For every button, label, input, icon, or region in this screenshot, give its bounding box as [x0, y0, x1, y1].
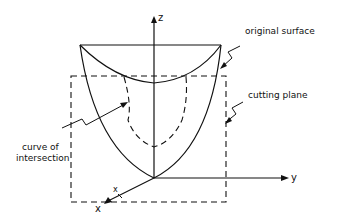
intersection-leader-arrow: [120, 102, 128, 108]
curve-of-intersection-label-line2: intersection: [16, 153, 69, 163]
z-axis-label: z: [158, 13, 163, 23]
surface-back-rim: [80, 45, 221, 83]
intersection-curve: [124, 77, 187, 147]
cutting-plane-label: cutting plane: [248, 90, 307, 100]
y-axis-arrowhead: [281, 175, 289, 181]
x-axis-label: x: [95, 204, 101, 214]
z-axis-arrowhead: [151, 16, 157, 23]
cutting-plane-rect: [71, 76, 226, 202]
x-axis-marker-label: x: [113, 185, 118, 195]
curve-of-intersection-label-line1: curve of: [22, 142, 59, 152]
y-axis-label: y: [291, 173, 297, 183]
original-surface-label: original surface: [245, 26, 315, 36]
x-axis-arrowhead: [104, 197, 112, 204]
surface-outer-profile: [80, 45, 221, 178]
